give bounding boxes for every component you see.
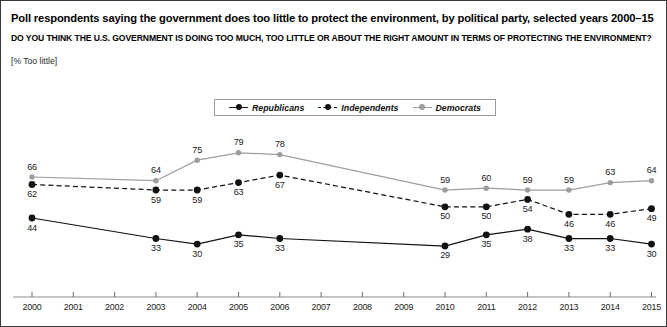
x-axis-tick-label: 2010 <box>436 302 455 312</box>
data-point <box>235 231 242 238</box>
data-point <box>194 187 201 194</box>
data-point-label: 67 <box>275 180 285 190</box>
data-point <box>608 180 613 185</box>
data-point-label: 78 <box>275 139 285 149</box>
data-point-label: 46 <box>605 219 615 229</box>
data-point-label: 59 <box>564 175 574 185</box>
x-axis-tick-label: 2012 <box>518 302 537 312</box>
chart-plot-area <box>1 1 666 326</box>
data-point <box>607 235 614 242</box>
data-point <box>524 226 531 233</box>
x-axis-tick-label: 2007 <box>312 302 331 312</box>
data-point <box>525 187 530 192</box>
x-axis-tick-label: 2006 <box>270 302 289 312</box>
x-axis-tick-label: 2011 <box>477 302 495 312</box>
data-point <box>483 203 490 210</box>
data-point <box>524 196 531 203</box>
data-point-label: 29 <box>440 250 450 260</box>
data-point <box>566 211 573 218</box>
data-point-label: 60 <box>481 173 491 183</box>
data-point-label: 63 <box>605 167 615 177</box>
data-point <box>276 172 283 179</box>
data-point <box>153 187 160 194</box>
data-point-label: 35 <box>481 239 491 249</box>
data-point <box>607 211 614 218</box>
data-point-label: 44 <box>27 223 37 233</box>
data-point <box>484 186 489 191</box>
legend-item-democrats: Democrats <box>413 103 481 113</box>
x-axis-tick-label: 2004 <box>188 302 207 312</box>
chart-subtitle: DO YOU THINK THE U.S. GOVERNMENT IS DOIN… <box>11 33 659 43</box>
legend-label-republicans: Republicans <box>252 103 304 113</box>
data-point <box>648 205 655 212</box>
data-point <box>566 235 573 242</box>
data-point <box>153 235 160 242</box>
x-axis-tick-label: 2005 <box>229 302 248 312</box>
data-point <box>235 179 242 186</box>
data-point <box>29 181 36 188</box>
series-line-republicans <box>32 218 652 246</box>
data-point-label: 59 <box>523 175 533 185</box>
data-point <box>236 150 241 155</box>
series-line-independents <box>32 175 652 214</box>
data-point-label: 59 <box>192 195 202 205</box>
data-point <box>442 243 449 250</box>
legend-marker-republicans-icon <box>229 103 248 112</box>
data-point-label: 79 <box>234 137 244 147</box>
x-axis-tick-label: 2002 <box>105 302 124 312</box>
data-point-label: 59 <box>440 175 450 185</box>
data-point-label: 33 <box>564 243 574 253</box>
x-axis-tick-label: 2015 <box>642 302 661 312</box>
data-point <box>153 178 158 183</box>
x-axis-tick-label: 2001 <box>64 302 83 312</box>
page-title: Poll respondents saying the government d… <box>11 12 656 24</box>
data-point <box>483 231 490 238</box>
data-point <box>195 158 200 163</box>
legend-marker-independents-icon <box>318 103 337 112</box>
data-point <box>442 203 449 210</box>
data-point <box>442 187 447 192</box>
data-point <box>649 178 654 183</box>
data-point <box>648 241 655 248</box>
data-point-label: 59 <box>151 195 161 205</box>
data-point <box>277 152 282 157</box>
chart-legend: Republicans Independents Democrats <box>214 99 496 116</box>
data-point <box>194 241 201 248</box>
data-point <box>29 215 36 222</box>
x-axis-tick-label: 2000 <box>23 302 42 312</box>
data-point-label: 63 <box>234 187 244 197</box>
series-line-democrats <box>32 153 652 190</box>
data-point-label: 46 <box>564 219 574 229</box>
legend-label-democrats: Democrats <box>436 103 481 113</box>
x-axis-tick-label: 2013 <box>559 302 578 312</box>
data-point-label: 49 <box>647 213 657 223</box>
legend-marker-democrats-icon <box>413 103 432 112</box>
data-point-label: 38 <box>523 234 533 244</box>
data-point-label: 33 <box>151 243 161 253</box>
legend-label-independents: Independents <box>341 103 398 113</box>
data-point <box>276 235 283 242</box>
chart-figure: Poll respondents saying the government d… <box>0 0 667 327</box>
data-point-label: 66 <box>27 162 37 172</box>
data-point-label: 54 <box>523 204 533 214</box>
x-axis-tick-label: 2003 <box>146 302 165 312</box>
y-axis-unit-label: [% Too little] <box>11 56 57 66</box>
x-axis-tick-label: 2014 <box>601 302 620 312</box>
legend-item-republicans: Republicans <box>229 103 304 113</box>
data-point-label: 33 <box>605 243 615 253</box>
data-point <box>29 174 34 179</box>
data-point-label: 50 <box>440 211 450 221</box>
data-point-label: 64 <box>647 165 657 175</box>
data-point <box>566 187 571 192</box>
legend-item-independents: Independents <box>318 103 398 113</box>
x-axis-tick-label: 2008 <box>353 302 372 312</box>
data-point-label: 35 <box>234 239 244 249</box>
data-point-label: 30 <box>192 249 202 259</box>
data-point-label: 30 <box>647 249 657 259</box>
data-point-label: 33 <box>275 243 285 253</box>
data-point-label: 50 <box>481 211 491 221</box>
x-axis-tick-label: 2009 <box>394 302 413 312</box>
data-point-label: 75 <box>192 145 202 155</box>
data-point-label: 64 <box>151 165 161 175</box>
data-point-label: 62 <box>27 189 37 199</box>
